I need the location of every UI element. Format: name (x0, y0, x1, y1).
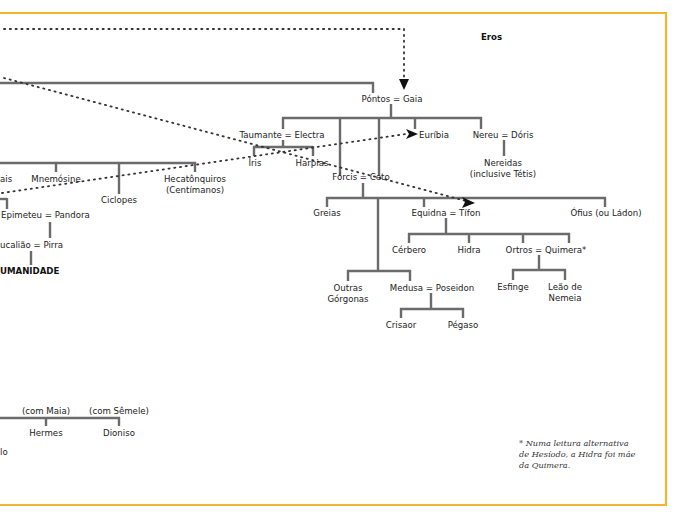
arrow-to-gaia-icon (399, 79, 409, 90)
footnote: * Numa leitura alternativa de Hesíodo, a… (519, 438, 679, 471)
node-forcis-ceto: Fórcis = Ceto (332, 172, 389, 182)
node-ofius: Ófius (ou Ládon) (570, 208, 641, 218)
genealogy-diagram: Eros Póntos = Gaia Taumante = Electra Eu… (0, 0, 693, 513)
node-epimeteu-pandora: Epimeteu = Pandora (1, 210, 90, 220)
node-hermes: Hermes (29, 428, 62, 438)
node-leao: Leão de (548, 282, 582, 292)
node-taumante-electra: Taumante = Electra (240, 130, 325, 140)
label-com-maia: (com Maia) (22, 406, 70, 416)
node-iris: Íris (249, 158, 262, 168)
frame (0, 12, 667, 505)
node-mnemosine: Mnemósine (31, 174, 80, 184)
node-eros: Eros (481, 32, 502, 42)
node-esfinge: Esfinge (497, 282, 529, 292)
node-cerbero: Cérbero (392, 245, 426, 255)
node-deucaliao-pirra: ucalião = Pirra (0, 240, 63, 250)
node-centimanos: (Centímanos) (166, 185, 224, 195)
node-ciclopes: Ciclopes (101, 195, 137, 205)
node-crisaor: Crisaor (386, 320, 416, 330)
node-outras: Outras (334, 283, 363, 293)
arrow-to-euribia-icon (406, 129, 418, 139)
node-nereidas: Nereidas (484, 158, 522, 168)
node-euribia: Euríbia (419, 130, 449, 140)
node-hidra: Hidra (457, 245, 480, 255)
footnote-line-1: * Numa leitura alternativa (519, 438, 679, 449)
node-titanides-partial: ais (0, 174, 12, 184)
footnote-line-2: de Hesíodo, a Hidra foi mãe (519, 449, 679, 460)
node-nemeia: Nemeia (548, 293, 581, 303)
node-dioniso: Dioniso (103, 428, 135, 438)
node-apolo-partial: lo (0, 447, 8, 457)
node-harpias: Harpias (296, 158, 329, 168)
node-medusa-poseidon: Medusa = Poseidon (390, 283, 474, 293)
node-greias: Greias (313, 208, 340, 218)
node-pontos-gaia: Póntos = Gaia (362, 94, 423, 104)
node-equidna-tifon: Equidna = Tífon (412, 208, 481, 218)
node-nereidas-note: (inclusive Tétis) (470, 169, 536, 179)
node-pegaso: Pégaso (448, 320, 479, 330)
node-hecatonquiros: Hecatônquiros (164, 174, 226, 184)
node-gorgonas: Górgonas (327, 294, 368, 304)
node-nereu-doris: Nereu = Dóris (473, 130, 534, 140)
node-humanidade: UMANIDADE (0, 266, 59, 276)
footnote-line-3: da Quimera. (519, 460, 679, 471)
node-ortros-quimera: Ortros = Quimera* (506, 245, 587, 255)
label-com-semele: (com Sêmele) (89, 406, 149, 416)
